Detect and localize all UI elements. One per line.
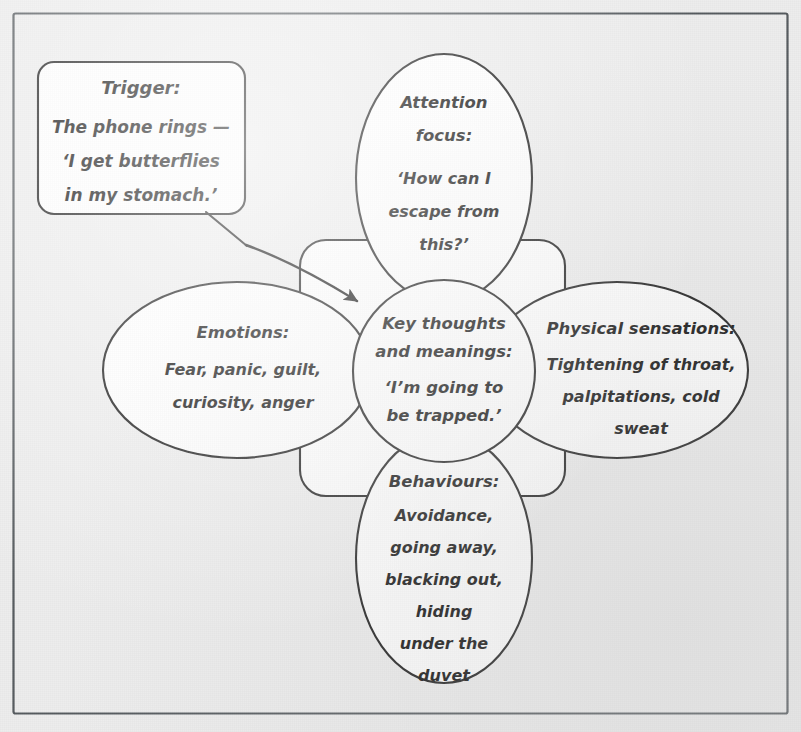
attention-focus-line-1: ‘How can I [397,169,491,188]
node-behaviours[interactable]: Behaviours: Avoidance, going away, black… [356,433,532,685]
behaviours-line-4: hiding [416,602,473,621]
physical-sensations-line-3: sweat [614,419,669,438]
attention-focus-heading-line-1: Attention [398,93,487,112]
hot-cross-bun-diagram: Attention focus: ‘How can I escape from … [0,0,801,732]
key-thoughts-line-2: be trapped.’ [386,406,501,425]
figure-canvas: Attention focus: ‘How can I escape from … [0,0,801,732]
attention-focus-line-3: this?’ [419,235,468,254]
trigger-heading: Trigger: [101,77,180,98]
node-attention-focus[interactable]: Attention focus: ‘How can I escape from … [356,54,532,302]
attention-focus-heading-line-2: focus: [416,126,472,145]
attention-focus-line-2: escape from [388,202,499,221]
node-trigger[interactable]: Trigger: The phone rings — ‘I get butter… [38,62,247,246]
trigger-bubble-tail [206,212,247,246]
behaviours-line-5: under the [400,634,489,653]
key-thoughts-heading-line-2: and meanings: [375,342,512,361]
key-thoughts-line-1: ‘I’m going to [385,378,504,397]
emotions-line-2: curiosity, anger [172,393,314,412]
key-thoughts-heading-line-1: Key thoughts [382,314,506,333]
physical-sensations-line-1: Tightening of throat, [547,355,736,374]
behaviours-heading: Behaviours: [389,472,500,491]
trigger-line-1: The phone rings — [52,117,230,137]
key-thoughts-circle [353,280,535,462]
behaviours-line-2: going away, [390,538,498,557]
node-emotions[interactable]: Emotions: Fear, panic, guilt, curiosity,… [103,282,371,458]
physical-sensations-line-2: palpitations, cold [561,387,720,406]
behaviours-line-6: duvet [418,666,471,685]
trigger-line-3: in my stomach.’ [65,185,218,205]
trigger-line-2: ‘I get butterflies [62,151,220,171]
behaviours-line-1: Avoidance, [393,506,493,525]
node-key-thoughts[interactable]: Key thoughts and meanings: ‘I’m going to… [353,280,535,462]
emotions-line-1: Fear, panic, guilt, [165,360,321,379]
physical-sensations-heading: Physical sensations: [546,319,735,338]
behaviours-line-3: blacking out, [385,570,503,589]
emotions-heading: Emotions: [197,323,290,342]
